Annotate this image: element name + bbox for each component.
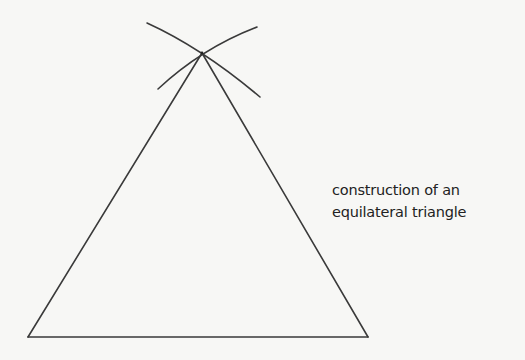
triangle-side-left: [28, 53, 202, 337]
diagram-canvas: construction of an equilateral triangle: [0, 0, 525, 360]
caption-line-1: construction of an: [332, 179, 466, 201]
diagram-caption: construction of an equilateral triangle: [332, 179, 466, 223]
apex-point: [201, 52, 204, 55]
caption-line-2: equilateral triangle: [332, 201, 466, 223]
construction-arc-from-bottom-left: [147, 23, 260, 97]
